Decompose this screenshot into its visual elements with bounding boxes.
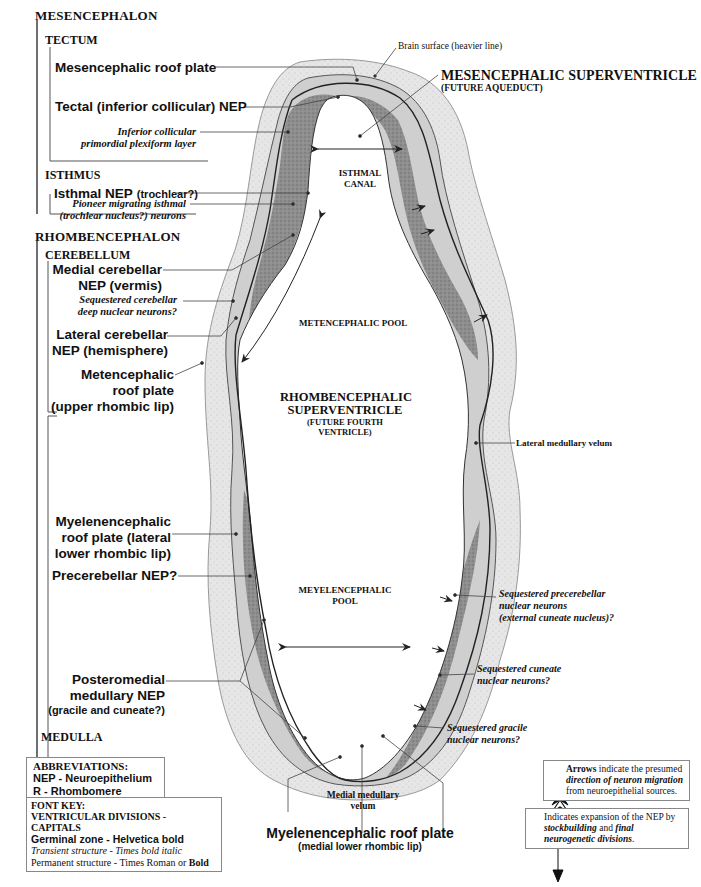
label-lateral-medullary-velum: Lateral medullary velum	[516, 437, 612, 449]
label-seq-precerebellar: Sequestered precerebellar nuclear neuron…	[499, 588, 614, 624]
label-seq-cuneate: Sequestered cuneate nuclear neurons?	[477, 663, 561, 687]
label-posteromedial-medullary-nep: Posteromedial medullary NEP (gracile and…	[40, 672, 165, 717]
font-key-box: FONT KEY: VENTRICULAR DIVISIONS - CAPITA…	[26, 797, 222, 872]
label-meyelencephalic-pool: MEYELENCEPHALIC POOL	[290, 585, 400, 607]
legend-migration-arrows: Arrows indicate the presumed direction o…	[543, 760, 690, 801]
label-metencephalic-roof-plate: Metencephalic roof plate (upper rhombic …	[50, 367, 174, 415]
label-pioneer-isthmal: Pioneer migrating isthmal (trochlear nuc…	[50, 198, 186, 222]
label-inferior-collicular-ppl: Inferior collicular primordial plexiform…	[50, 126, 196, 150]
division-cerebellum: CEREBELLUM	[45, 248, 130, 263]
label-mesencephalic-roof-plate: Mesencephalic roof plate	[55, 60, 216, 76]
label-seq-gracile: Sequestered gracile nuclear neurons?	[447, 722, 527, 746]
abbreviations-box: ABBREVIATIONS: NEP - Neuroepithelium R -…	[26, 757, 165, 801]
label-myelenencephalic-roof-plate-lateral: Myelenencephalic roof plate (lateral low…	[50, 514, 171, 562]
label-mesencephalic-superventricle: MESENCEPHALIC SUPERVENTRICLE (FUTURE AQU…	[441, 68, 697, 94]
division-rhombencephalon: RHOMBENCEPHALON	[35, 229, 180, 245]
legend-expansion-arrows: Indicates expansion of the NEP by stockb…	[525, 808, 689, 849]
label-tectal-nep: Tectal (inferior collicular) NEP	[55, 99, 247, 115]
label-medial-medullary-velum: Medial medullary velum	[318, 790, 408, 812]
label-isthmal-canal: ISTHMAL CANAL	[320, 168, 400, 190]
label-medial-cerebellar-nep: Medial cerebellar NEP (vermis)	[50, 262, 162, 294]
label-lateral-cerebellar-nep: Lateral cerebellar NEP (hemisphere)	[50, 327, 168, 359]
label-metencephalic-pool: METENCEPHALIC POOL	[299, 318, 407, 329]
label-sequestered-cerebellar: Sequestered cerebellar deep nuclear neur…	[50, 294, 177, 318]
division-tectum: TECTUM	[45, 33, 98, 48]
division-mesencephalon: MESENCEPHALON	[35, 8, 158, 24]
label-rhombencephalic-superventricle: RHOMBENCEPHALIC SUPERVENTRICLE (FUTURE F…	[280, 391, 410, 437]
division-isthmus: ISTHMUS	[45, 168, 100, 183]
division-medulla: MEDULLA	[41, 730, 102, 745]
label-brain-surface: Brain surface (heavier line)	[398, 40, 502, 52]
label-myelenencephalic-roof-plate-medial: Myelenencephalic roof plate (medial lowe…	[255, 825, 465, 852]
label-precerebellar-nep: Precerebellar NEP?	[52, 568, 177, 584]
